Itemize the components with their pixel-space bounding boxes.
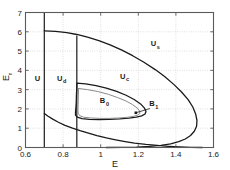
- y-tick-label: 6: [18, 28, 23, 37]
- annotation-subscript: d: [63, 78, 66, 84]
- y-tick-label: 5: [18, 47, 23, 56]
- y-tick-label: 4: [18, 66, 23, 75]
- plot-background: [0, 0, 230, 170]
- x-tick-label: 1: [98, 150, 103, 159]
- svg-text:E: E: [112, 159, 118, 169]
- figure-container: 0.60.811.21.41.6 01234567 UUdUcUsB0B1 E …: [0, 0, 230, 170]
- y-tick-label: 0: [18, 144, 23, 153]
- annotation-subscript: 1: [155, 104, 158, 110]
- x-tick-label: 1.2: [133, 150, 145, 159]
- B_1-point: [135, 111, 138, 114]
- phase-diagram-plot: 0.60.811.21.41.6 01234567 UUdUcUsB0B1 E …: [0, 0, 230, 170]
- annotation-base: U: [120, 72, 125, 81]
- annotation-base: U: [57, 74, 62, 83]
- y-tick-label: 3: [18, 86, 23, 95]
- annotation-base: U: [35, 74, 40, 83]
- x-tick-label: 0.8: [58, 150, 70, 159]
- y-tick-label: 2: [18, 105, 23, 114]
- annotation-subscript: 0: [106, 101, 109, 107]
- x-tick-label: 1.6: [208, 150, 220, 159]
- y-tick-label: 7: [18, 9, 23, 18]
- annotation-subscript: c: [126, 76, 129, 82]
- svg-text:E: E: [1, 75, 11, 81]
- annotation-base: U: [151, 39, 156, 48]
- y-tick-label: 1: [18, 124, 23, 133]
- annotation-U: U: [35, 74, 40, 83]
- annotation-subscript: s: [157, 44, 160, 50]
- x-tick-label: 1.4: [170, 150, 182, 159]
- x-axis-title: E: [112, 159, 118, 169]
